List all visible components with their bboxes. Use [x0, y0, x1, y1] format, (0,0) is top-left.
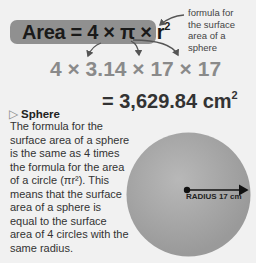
annotation-arrow	[160, 15, 184, 25]
section-heading: ▷Sphere	[9, 107, 60, 121]
section-heading-text: Sphere	[21, 108, 60, 120]
r-arrow-2	[133, 40, 178, 55]
result-exponent: 2	[232, 89, 238, 101]
result: = 3,629.84 cm2	[102, 90, 238, 113]
triangle-right-icon: ▷	[9, 108, 18, 120]
section-body: The formula for the surface area of a sp…	[10, 120, 130, 255]
result-text: = 3,629.84 cm	[102, 90, 232, 112]
radius-label: RADIUS 17 cm	[186, 192, 242, 201]
pi-arrow	[88, 43, 101, 56]
calculation: 4 × 3.14 × 17 × 17	[50, 57, 221, 81]
r-arrow-1	[131, 41, 139, 55]
